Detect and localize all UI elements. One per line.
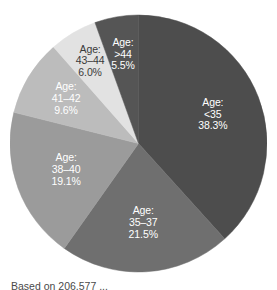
pie-slices — [10, 15, 267, 272]
pie-chart-svg — [10, 9, 267, 279]
pie-chart-area: Age: <35 38.3% Age: 35–37 21.5% Age: 38–… — [10, 9, 267, 279]
chart-caption: Based on 206,577 ... — [11, 280, 108, 290]
pie-chart-figure: Age: <35 38.3% Age: 35–37 21.5% Age: 38–… — [0, 0, 277, 290]
